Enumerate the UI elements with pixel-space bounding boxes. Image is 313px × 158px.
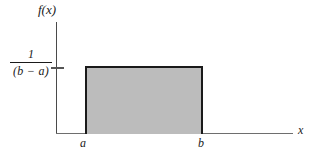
y-axis-label: f(x)	[38, 3, 56, 16]
fraction-numerator: 1	[10, 48, 52, 61]
y-tick-fraction-label: 1 (b − a)	[10, 48, 52, 77]
x-axis-label: x	[298, 124, 303, 136]
y-axis-tick-mark	[51, 67, 64, 69]
x-tick-label-b: b	[198, 137, 204, 149]
y-axis-line	[56, 22, 57, 134]
x-tick-label-a: a	[80, 137, 86, 149]
fraction-bar	[10, 62, 52, 63]
fraction-denominator: (b − a)	[10, 64, 52, 77]
uniform-density-rectangle	[85, 66, 203, 134]
uniform-distribution-figure: f(x) x a b 1 (b − a)	[0, 0, 313, 158]
